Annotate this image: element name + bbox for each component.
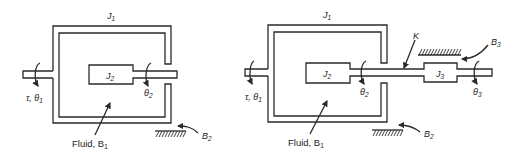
left-input-shaft <box>23 71 53 78</box>
left-input-label: τ, θ1 <box>26 93 43 104</box>
right-b2-ground-hatch-icon <box>372 130 403 136</box>
mechanical-system-diagram: J1 J2 τ, θ1 θ2 Fluid, B1 B2 <box>0 0 518 156</box>
left-theta2-rotation-icon <box>146 63 151 86</box>
left-input-rotation-icon <box>35 63 40 86</box>
right-b2-label: B2 <box>424 129 434 140</box>
right-system: J1 J2 J3 τ, θ1 θ2 θ3 K B3 B2 Fluid, B1 <box>245 10 501 149</box>
left-fluid-pointer <box>95 103 110 135</box>
left-j2-label: J2 <box>105 71 115 82</box>
right-theta2-rotation-icon <box>361 61 366 84</box>
right-k-label: K <box>413 31 420 41</box>
right-fluid-pointer <box>310 101 327 134</box>
right-shaft-assembly <box>306 63 492 83</box>
right-theta3-rotation-icon <box>474 61 479 84</box>
right-j2-label: J2 <box>322 69 332 80</box>
right-spring-pointer <box>404 40 415 68</box>
right-input-shaft <box>245 69 268 76</box>
right-j1-label: J1 <box>322 10 332 21</box>
right-b3-pointer <box>462 45 488 59</box>
left-system: J1 J2 τ, θ1 θ2 Fluid, B1 B2 <box>23 11 212 150</box>
left-j2-rotor <box>89 65 177 84</box>
right-b3-ground-hatch-icon <box>418 49 461 55</box>
left-b2-label: B2 <box>202 131 212 142</box>
right-j3-label: J3 <box>435 69 445 80</box>
right-theta2-label: θ2 <box>360 87 369 98</box>
left-j1-label: J1 <box>106 11 116 22</box>
right-b3-label: B3 <box>491 37 501 48</box>
right-input-rotation-icon <box>250 61 254 84</box>
left-ground-hatch-icon <box>155 131 186 137</box>
right-input-label: τ, θ1 <box>245 92 262 103</box>
right-theta3-label: θ3 <box>473 87 482 98</box>
left-theta2-label: θ2 <box>144 88 153 99</box>
left-fluid-label: Fluid, B1 <box>72 138 108 150</box>
right-fluid-label: Fluid, B1 <box>288 137 324 149</box>
left-b2-pointer <box>178 126 198 133</box>
